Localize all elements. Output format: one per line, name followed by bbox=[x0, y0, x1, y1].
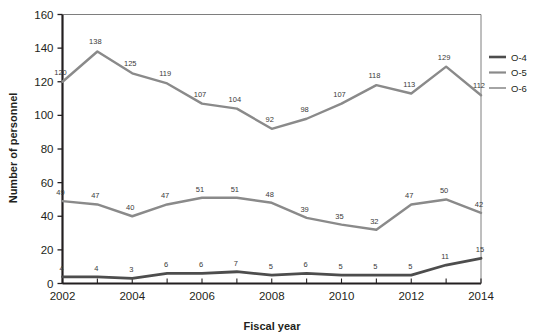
x-tick-label: 2010 bbox=[329, 290, 355, 302]
point-label-o-5: 47 bbox=[161, 191, 169, 200]
x-tick-label: 2006 bbox=[189, 290, 215, 302]
y-axis-ticks: 020406080100120140160 bbox=[34, 9, 62, 290]
point-label-o-5: 35 bbox=[335, 212, 343, 221]
chart-canvas: 020406080100120140160 200220042006200820… bbox=[0, 0, 545, 335]
point-label-o-5: 47 bbox=[405, 191, 413, 200]
legend-item-o-4[interactable]: O-4 bbox=[489, 52, 527, 63]
point-label-o-4: 5 bbox=[373, 262, 377, 271]
y-axis-title: Number of personnel bbox=[7, 93, 19, 204]
legend-label-o-6: O-6 bbox=[511, 83, 527, 94]
point-label-o-6: 120 bbox=[54, 68, 67, 77]
point-label-o-4: 6 bbox=[164, 260, 168, 269]
y-tick-label: 40 bbox=[41, 210, 54, 222]
point-label-o-4: 4 bbox=[94, 264, 98, 273]
point-label-o-5: 32 bbox=[370, 217, 378, 226]
point-label-o-5: 40 bbox=[126, 203, 134, 212]
point-label-o-6: 112 bbox=[473, 81, 485, 90]
y-tick-label: 20 bbox=[41, 244, 54, 256]
point-label-o-5: 39 bbox=[300, 205, 308, 214]
point-label-o-4: 6 bbox=[304, 260, 308, 269]
x-tick-label: 2014 bbox=[468, 290, 494, 302]
point-label-o-4: 11 bbox=[441, 252, 449, 261]
x-tick-label: 2012 bbox=[398, 290, 424, 302]
point-label-o-5: 48 bbox=[266, 190, 274, 199]
point-label-o-5: 51 bbox=[231, 185, 239, 194]
point-label-o-6: 98 bbox=[300, 105, 308, 114]
point-label-o-6: 107 bbox=[194, 90, 207, 99]
point-label-o-6: 104 bbox=[229, 95, 242, 104]
point-label-o-5: 47 bbox=[91, 191, 99, 200]
point-label-o-4: 7 bbox=[234, 259, 238, 268]
y-tick-label: 100 bbox=[34, 109, 53, 121]
y-tick-label: 80 bbox=[41, 143, 54, 155]
y-tick-label: 160 bbox=[34, 9, 53, 21]
point-label-o-4: 5 bbox=[338, 262, 342, 271]
point-label-o-5: 42 bbox=[475, 200, 483, 209]
line-chart: 020406080100120140160 200220042006200820… bbox=[0, 0, 545, 335]
legend-item-o-6[interactable]: O-6 bbox=[489, 83, 527, 94]
point-label-o-4: 3 bbox=[129, 265, 133, 274]
series-lines bbox=[63, 51, 482, 278]
point-label-o-6: 118 bbox=[368, 71, 380, 80]
y-tick-label: 140 bbox=[34, 42, 53, 54]
point-label-o-4: 15 bbox=[476, 245, 484, 254]
point-label-o-6: 107 bbox=[333, 90, 346, 99]
point-label-o-6: 92 bbox=[266, 115, 274, 124]
point-label-o-5: 51 bbox=[196, 185, 204, 194]
y-tick-label: 60 bbox=[41, 177, 54, 189]
y-tick-label: 0 bbox=[47, 278, 53, 290]
point-label-o-4: 6 bbox=[199, 260, 203, 269]
point-label-o-5: 49 bbox=[56, 188, 64, 197]
point-label-o-4: 5 bbox=[408, 262, 412, 271]
y-tick-label: 120 bbox=[34, 76, 53, 88]
point-label-o-5: 50 bbox=[440, 186, 448, 195]
point-label-o-6: 119 bbox=[159, 69, 171, 78]
x-tick-label: 2004 bbox=[119, 290, 145, 302]
point-label-o-6: 113 bbox=[403, 80, 415, 89]
x-axis-ticks: 2002200420062008201020122014 bbox=[50, 279, 495, 302]
legend-item-o-5[interactable]: O-5 bbox=[489, 67, 527, 78]
point-label-o-6: 138 bbox=[89, 37, 102, 46]
point-label-o-4: 4 bbox=[59, 264, 63, 273]
legend-label-o-5: O-5 bbox=[511, 67, 527, 78]
plot-frame bbox=[63, 15, 482, 284]
x-tick-label: 2002 bbox=[50, 290, 76, 302]
point-label-o-4: 5 bbox=[269, 262, 273, 271]
x-tick-label: 2008 bbox=[259, 290, 285, 302]
x-axis-title: Fiscal year bbox=[244, 320, 302, 332]
series-point-labels: 4436675655511154947404751514839353247504… bbox=[54, 37, 485, 274]
legend: O-4O-5O-6 bbox=[489, 52, 527, 94]
point-label-o-6: 125 bbox=[124, 59, 137, 68]
point-label-o-6: 129 bbox=[438, 53, 451, 62]
legend-label-o-4: O-4 bbox=[511, 52, 527, 63]
